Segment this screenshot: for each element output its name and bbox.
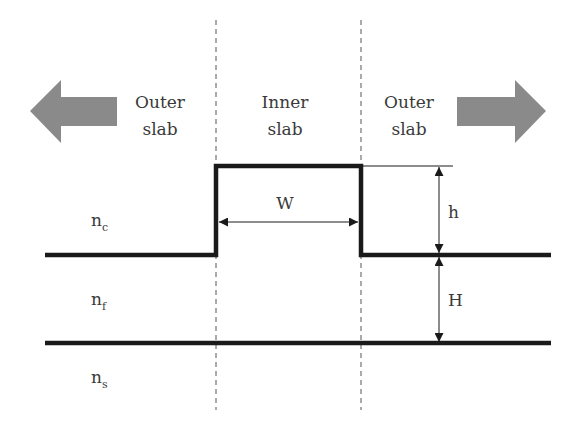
right-region-label-line1: Outer (384, 92, 435, 112)
substrate-index-label: ns (91, 367, 108, 391)
left-region-label-line1: Outer (135, 92, 186, 112)
rib-profile (45, 166, 551, 255)
cover-index-label: nc (91, 210, 108, 234)
rib-waveguide-diagram: Outer slab Inner slab Outer slab W h H n… (0, 0, 582, 431)
slab-height-label: H (448, 290, 463, 310)
center-region-label-line1: Inner (262, 92, 310, 112)
right-region-label-line2: slab (391, 119, 426, 139)
film-index-label: nf (91, 289, 107, 313)
left-arrow-icon (30, 80, 117, 143)
rib-height-label: h (448, 202, 459, 222)
left-region-label-line2: slab (142, 119, 177, 139)
width-label: W (276, 193, 294, 213)
center-region-label-line2: slab (267, 119, 302, 139)
right-arrow-icon (457, 80, 546, 143)
